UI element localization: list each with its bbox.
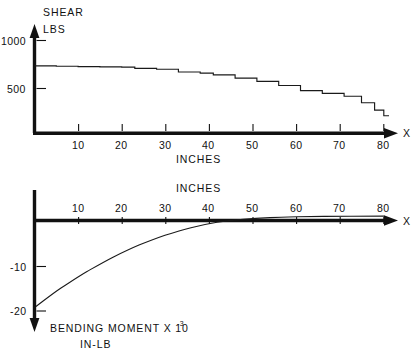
moment-x-tick-label-70: 70 — [333, 202, 345, 214]
moment-x-tick-label-10: 10 — [72, 202, 84, 214]
moment-y-title-exponent: -3 — [177, 320, 184, 327]
figure-canvas: SHEAR LBS X 500 1000 10 20 30 40 50 60 7… — [0, 0, 417, 354]
shear-and-bending-moment-figure: SHEAR LBS X 500 1000 10 20 30 40 50 60 7… — [0, 0, 417, 354]
shear-x-tick-label-10: 10 — [72, 139, 84, 151]
moment-x-axis-title: INCHES — [176, 182, 221, 194]
shear-x-axis-arrow — [384, 128, 398, 138]
moment-y-tick-label-minus10: -10 — [10, 261, 26, 273]
shear-x-axis-symbol: X — [403, 127, 411, 139]
moment-x-axis-symbol: X — [403, 215, 411, 227]
shear-y-tick-label-1000: 1000 — [1, 35, 26, 47]
moment-y-axis-arrow — [30, 318, 40, 332]
moment-x-tick-label-60: 60 — [290, 202, 302, 214]
shear-x-tick-label-80: 80 — [377, 139, 389, 151]
moment-x-tick-label-30: 30 — [159, 202, 171, 214]
bending-moment-diagram: X INCHES 10 20 30 40 50 60 70 80 -10 -20… — [10, 182, 411, 350]
moment-x-axis-arrow — [384, 215, 398, 225]
shear-x-tick-label-40: 40 — [202, 139, 214, 151]
shear-x-tick-label-60: 60 — [290, 139, 302, 151]
moment-x-tick-label-20: 20 — [115, 202, 127, 214]
shear-y-axis-arrow — [30, 24, 40, 38]
shear-x-axis-title: INCHES — [176, 153, 221, 165]
shear-y-title-line2: LBS — [43, 23, 66, 35]
shear-x-tick-label-50: 50 — [246, 139, 258, 151]
moment-y-title-main: BENDING MOMENT X 10 — [50, 322, 189, 334]
shear-y-title-line1: SHEAR — [43, 6, 84, 18]
shear-x-tick-label-20: 20 — [115, 139, 127, 151]
shear-x-tick-label-30: 30 — [159, 139, 171, 151]
shear-step-curve — [35, 66, 390, 116]
moment-x-tick-label-80: 80 — [377, 202, 389, 214]
moment-y-tick-label-minus20: -20 — [10, 305, 26, 317]
moment-x-tick-label-40: 40 — [202, 202, 214, 214]
moment-curve-main — [36, 216, 384, 306]
shear-x-tick-label-70: 70 — [333, 139, 345, 151]
moment-x-tick-label-50: 50 — [246, 202, 258, 214]
shear-diagram: SHEAR LBS X 500 1000 10 20 30 40 50 60 7… — [1, 6, 411, 165]
moment-y-title-units: IN-LB — [80, 338, 111, 350]
shear-y-tick-label-500: 500 — [7, 83, 26, 95]
